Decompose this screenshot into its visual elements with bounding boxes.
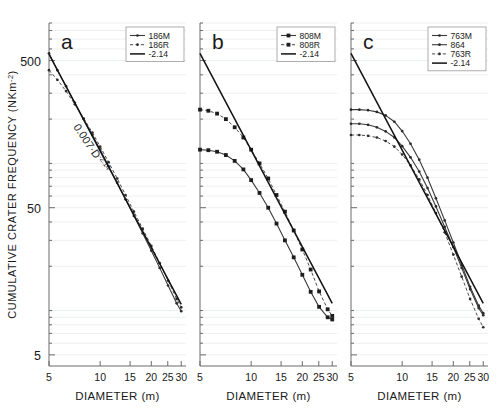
legend-marker [287, 34, 291, 38]
data-marker [330, 314, 334, 318]
x-axis-title: DIAMETER (m) [226, 390, 311, 402]
data-marker [477, 307, 480, 310]
figure-container: 51015202530DIAMETER (m)a186M186R-2.14510… [0, 0, 503, 416]
panel-letter: b [212, 30, 224, 53]
panel-b: 51015202530DIAMETER (m)b808M808R-2.14 [197, 23, 338, 402]
data-marker [224, 153, 228, 157]
data-marker [48, 69, 51, 72]
data-marker [215, 112, 219, 116]
data-marker [358, 122, 361, 125]
power-law-annotation: 0.007·D-2.14 [71, 121, 112, 173]
data-marker [384, 140, 387, 143]
series-763M [351, 110, 483, 314]
y-tick-label: 50 [27, 202, 41, 216]
data-marker [418, 170, 421, 173]
panel-letter: a [61, 30, 73, 53]
x-tick-label: 5 [46, 371, 52, 383]
legend-marker [438, 34, 441, 37]
x-tick-label: 25 [162, 371, 174, 383]
y-axis-title-close: ) [6, 70, 18, 74]
data-marker [330, 318, 334, 322]
data-marker [283, 238, 287, 242]
x-tick-label: 10 [245, 371, 257, 383]
legend-marker [438, 53, 441, 56]
data-marker [460, 275, 463, 278]
x-tick-label: 15 [124, 371, 136, 383]
data-marker [426, 187, 429, 190]
series--2.14 [49, 54, 181, 304]
x-tick-label: 15 [426, 371, 438, 383]
y-axis-title-exponent: -2 [6, 74, 15, 82]
x-tick-label: 5 [197, 371, 203, 383]
x-tick-label: 5 [348, 371, 354, 383]
data-marker [384, 130, 387, 133]
panel-c: 51015202530DIAMETER (m)c763M864763R-2.14 [348, 23, 489, 402]
data-marker [418, 158, 421, 161]
data-marker [180, 310, 183, 313]
data-marker [350, 122, 353, 125]
x-tick-label: 10 [396, 371, 408, 383]
data-marker [367, 109, 370, 112]
data-marker [452, 253, 455, 256]
data-marker [409, 156, 412, 159]
data-marker [266, 206, 270, 210]
data-marker [469, 288, 472, 291]
x-tick-label: 25 [313, 371, 325, 383]
data-marker [56, 78, 59, 81]
data-marker [376, 126, 379, 129]
series-864 [351, 124, 483, 315]
data-marker [241, 168, 245, 172]
data-marker [224, 117, 228, 121]
data-marker [233, 159, 237, 163]
panel-a: 51015202530DIAMETER (m)a186M186R-2.14 [46, 23, 187, 402]
y-tick-label: 500 [20, 55, 41, 69]
series-808R [200, 110, 332, 316]
data-marker [198, 148, 202, 152]
data-marker [215, 150, 219, 154]
data-marker [116, 177, 119, 180]
data-marker [198, 108, 202, 112]
data-marker [309, 290, 313, 294]
data-marker [426, 176, 429, 179]
data-marker [435, 197, 438, 200]
data-marker [409, 142, 412, 145]
data-marker [477, 317, 480, 320]
data-marker [393, 145, 396, 148]
x-tick-label: 20 [296, 371, 308, 383]
data-marker [435, 205, 438, 208]
legend-marker [136, 43, 139, 46]
data-marker [326, 307, 330, 311]
data-marker [367, 123, 370, 126]
data-marker [376, 136, 379, 139]
data-marker [367, 134, 370, 137]
data-marker [326, 315, 330, 319]
data-marker [401, 153, 404, 156]
data-marker [292, 255, 296, 259]
annotation-exponent: -2.14 [97, 154, 112, 171]
data-marker [358, 108, 361, 111]
data-marker [350, 108, 353, 111]
data-marker [358, 134, 361, 137]
data-marker [350, 134, 353, 137]
data-marker [317, 305, 321, 309]
x-tick-label: 30 [175, 371, 187, 383]
y-axis-title-text: CUMULATIVE CRATER FREQUENCY (NKm-2) [6, 70, 18, 318]
data-marker [258, 191, 262, 195]
legend-marker [287, 43, 291, 47]
data-marker [206, 109, 210, 113]
data-marker [167, 284, 170, 287]
legend-marker [438, 43, 441, 46]
data-marker [175, 302, 178, 305]
x-tick-label: 25 [464, 371, 476, 383]
crater-frequency-figure: 51015202530DIAMETER (m)a186M186R-2.14510… [0, 0, 503, 416]
legend-label: -2.14 [149, 49, 169, 59]
data-marker [233, 125, 237, 129]
data-marker [443, 219, 446, 222]
x-tick-label: 10 [94, 371, 106, 383]
y-tick-label: 5 [34, 349, 41, 363]
legend-marker [136, 34, 139, 37]
data-marker [206, 148, 210, 152]
data-marker [317, 289, 321, 293]
x-axis-title: DIAMETER (m) [75, 390, 160, 402]
x-tick-label: 30 [477, 371, 489, 383]
